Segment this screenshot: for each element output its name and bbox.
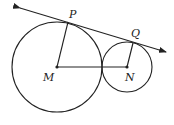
tangent-line-pq: [20, 8, 166, 52]
label-p: P: [68, 8, 77, 21]
radius-mp: [57, 22, 68, 67]
label-m: M: [42, 71, 55, 84]
center-dot-n: [125, 65, 128, 68]
geometry-diagram: P Q M N: [0, 0, 174, 125]
label-n: N: [124, 71, 135, 84]
radius-nq: [127, 43, 133, 67]
diagram-canvas: P Q M N: [0, 0, 174, 125]
label-q: Q: [131, 27, 140, 40]
center-dot-m: [55, 65, 58, 68]
